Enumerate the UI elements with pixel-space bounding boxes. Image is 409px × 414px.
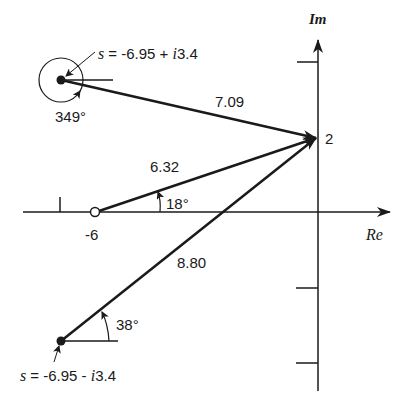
angle-arc-38-icon	[102, 312, 109, 341]
angle-arc-18-icon	[158, 192, 160, 212]
pole-marker-icon	[57, 337, 66, 346]
imag-axis-label: Im	[308, 11, 327, 27]
zero-label: -6	[85, 226, 98, 243]
angle-label-349: 349°	[55, 108, 86, 125]
s-plane-diagram: Re Im 2 s= -6.95 + i3.4 349° 7.09 -6 18°…	[0, 0, 409, 414]
upper-pole-label: s= -6.95 + i3.4	[98, 45, 198, 62]
label-pointer	[54, 346, 59, 362]
upper-pole: s= -6.95 + i3.4 349° 7.09	[39, 45, 316, 138]
vector-7-09	[61, 80, 316, 138]
angle-label-18: 18°	[166, 195, 189, 212]
angle-arc-arrow-icon	[78, 91, 80, 94]
vector-8-80	[61, 138, 316, 341]
pole-marker-icon	[57, 76, 66, 85]
imag-axis: Im	[296, 11, 327, 391]
vector-6-32	[99, 138, 316, 211]
real-axis-label: Re	[365, 226, 383, 243]
vector-length-6-32: 6.32	[150, 158, 179, 175]
zero-marker-icon	[91, 208, 100, 217]
vector-length-8-80: 8.80	[177, 254, 206, 271]
zero: -6 18° 6.32	[85, 138, 316, 243]
real-axis: Re	[23, 197, 390, 243]
angle-label-38: 38°	[116, 316, 139, 333]
lower-pole-label: s= -6.95 - i3.4	[20, 367, 116, 384]
test-point-label: 2	[325, 130, 333, 147]
label-pointer	[66, 52, 95, 76]
vector-length-7-09: 7.09	[215, 93, 244, 110]
